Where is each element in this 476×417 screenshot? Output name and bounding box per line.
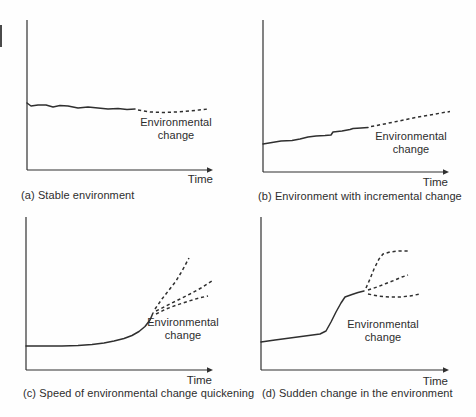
panel-a-time-axis-label: Time: [153, 173, 213, 185]
panel-b-environmental-change-label: Environmental change: [369, 130, 453, 155]
panel-c-time-axis-label: Time: [152, 374, 212, 386]
panel-c-caption: (c) Speed of environmental change quicke…: [23, 387, 254, 399]
panel-a-caption: (a) Stable environment: [21, 189, 134, 201]
panel-d-environmental-change-label: Environmental change: [341, 318, 425, 343]
environment-change-figure: Environmental change Time (a) Stable env…: [0, 0, 476, 417]
panel-c-environmental-change-label: Environmental change: [141, 316, 225, 341]
panel-a-environmental-change-label: Environmental change: [134, 116, 218, 141]
figure-canvas: [0, 0, 476, 417]
panel-b-time-axis-label: Time: [388, 176, 448, 188]
panel-b-caption: (b) Environment with incremental change: [258, 190, 462, 202]
panel-d-caption: (d) Sudden change in the environment: [262, 387, 453, 399]
panel-d-time-axis-label: Time: [388, 375, 448, 387]
